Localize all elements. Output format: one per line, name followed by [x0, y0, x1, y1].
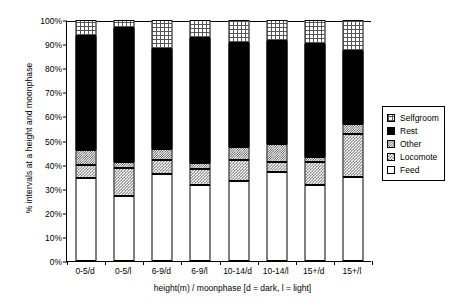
- legend-item-label: Locomote: [400, 152, 437, 162]
- bar-group: [67, 21, 105, 261]
- legend-item-rest[interactable]: Rest: [387, 124, 439, 137]
- legend: SelfgroomRestOtherLocomoteFeed: [382, 106, 445, 181]
- legend-item-label: Rest: [400, 126, 417, 136]
- bar-segment-other: [266, 144, 287, 162]
- x-axis-title: height(m) / moonphase [d = dark, l = lig…: [0, 283, 465, 293]
- x-axis-tick-label: 15+/d: [303, 266, 325, 276]
- bar-segment-feed: [190, 185, 211, 261]
- stacked-bar[interactable]: [76, 21, 97, 261]
- bar-group: [258, 21, 296, 261]
- x-axis-tick-mark: [143, 261, 144, 265]
- bar-segment-selfgroom: [304, 20, 325, 44]
- y-axis-tick-label: 40%: [45, 161, 67, 171]
- bar-segment-locomote: [304, 162, 325, 185]
- legend-item-label: Other: [400, 139, 421, 149]
- bar-segment-locomote: [266, 162, 287, 172]
- stacked-bar[interactable]: [190, 21, 211, 261]
- bar-segment-locomote: [190, 169, 211, 185]
- bar-group: [296, 21, 334, 261]
- legend-swatch-icon: [387, 140, 395, 148]
- legend-item-other[interactable]: Other: [387, 137, 439, 150]
- bar-segment-locomote: [228, 160, 249, 182]
- bar-segment-feed: [152, 174, 173, 261]
- y-axis-tick-label: 100%: [40, 16, 67, 26]
- bar-segment-selfgroom: [342, 20, 363, 51]
- bar-segment-rest: [228, 43, 249, 147]
- bar-segment-other: [190, 163, 211, 169]
- bar-group: [105, 21, 143, 261]
- x-axis-tick-label: 10-14/l: [263, 266, 289, 276]
- x-axis-tick-mark: [67, 261, 68, 265]
- x-axis-tick-mark: [220, 261, 221, 265]
- plot-area: 0%10%20%30%40%50%60%70%80%90%100%: [66, 21, 371, 262]
- bar-group: [334, 21, 372, 261]
- bar-segment-feed: [304, 185, 325, 261]
- y-axis-tick-label: 80%: [45, 64, 67, 74]
- y-axis-tick-label: 50%: [45, 137, 67, 147]
- y-axis-tick-label: 70%: [45, 88, 67, 98]
- x-axis-tick-mark: [105, 261, 106, 265]
- bar-segment-rest: [266, 41, 287, 145]
- x-axis-tick-label: 0-5/d: [75, 266, 94, 276]
- legend-swatch-icon: [387, 127, 395, 135]
- bar-segment-rest: [304, 44, 325, 157]
- bar-segment-other: [342, 124, 363, 135]
- bar-segment-selfgroom: [76, 20, 97, 36]
- bar-segment-locomote: [114, 168, 135, 196]
- y-axis-title: % intervals at a height and moonphase: [24, 13, 34, 263]
- y-axis-tick-label: 60%: [45, 112, 67, 122]
- y-axis-tick-label: 10%: [45, 233, 67, 243]
- bar-segment-selfgroom: [152, 20, 173, 49]
- bar-segment-rest: [114, 28, 135, 162]
- bar-group: [181, 21, 219, 261]
- x-axis-tick-mark: [258, 261, 259, 265]
- stacked-bar[interactable]: [114, 21, 135, 261]
- bar-segment-locomote: [342, 134, 363, 176]
- stacked-bar[interactable]: [266, 21, 287, 261]
- y-axis-tick-label: 90%: [45, 40, 67, 50]
- legend-swatch-icon: [387, 166, 395, 174]
- x-axis-tick-label: 6-9/l: [191, 266, 208, 276]
- bar-segment-rest: [152, 49, 173, 149]
- x-axis-tick-label: 15+/l: [343, 266, 362, 276]
- bar-segment-other: [76, 150, 97, 164]
- bar-segment-feed: [114, 196, 135, 261]
- legend-swatch-icon: [387, 153, 395, 161]
- y-axis-tick-label: 0%: [50, 257, 67, 267]
- bar-segment-feed: [76, 178, 97, 261]
- bar-segment-other: [228, 147, 249, 160]
- bar-segment-other: [152, 149, 173, 160]
- bar-segment-selfgroom: [228, 20, 249, 43]
- bar-segment-rest: [76, 36, 97, 150]
- y-axis-tick-label: 20%: [45, 209, 67, 219]
- bar-segment-rest: [342, 51, 363, 123]
- legend-item-selfgroom[interactable]: Selfgroom: [387, 111, 439, 124]
- bar-segment-locomote: [152, 160, 173, 174]
- legend-item-label: Feed: [400, 165, 419, 175]
- stacked-bar[interactable]: [342, 21, 363, 261]
- bar-segment-feed: [342, 177, 363, 261]
- chart-figure: % intervals at a height and moonphase 0%…: [0, 0, 465, 307]
- bar-group: [143, 21, 181, 261]
- bar-segment-selfgroom: [266, 20, 287, 40]
- bar-group: [220, 21, 258, 261]
- x-axis-tick-label: 6-9/d: [152, 266, 171, 276]
- bar-segment-other: [304, 157, 325, 162]
- stacked-bar[interactable]: [304, 21, 325, 261]
- bar-segment-locomote: [76, 165, 97, 178]
- legend-item-label: Selfgroom: [400, 113, 439, 123]
- x-axis-tick-mark: [334, 261, 335, 265]
- stacked-bar[interactable]: [228, 21, 249, 261]
- x-axis-tick-label: 0-5/l: [115, 266, 132, 276]
- x-axis-tick-mark: [296, 261, 297, 265]
- stacked-bar[interactable]: [152, 21, 173, 261]
- legend-item-feed[interactable]: Feed: [387, 163, 439, 176]
- x-axis-tick-label: 10-14/d: [223, 266, 252, 276]
- bar-segment-feed: [266, 172, 287, 261]
- bar-segment-selfgroom: [190, 20, 211, 38]
- x-axis-tick-mark: [181, 261, 182, 265]
- legend-item-locomote[interactable]: Locomote: [387, 150, 439, 163]
- bar-segment-other: [114, 162, 135, 168]
- bar-segment-rest: [190, 38, 211, 163]
- bar-segment-selfgroom: [114, 20, 135, 28]
